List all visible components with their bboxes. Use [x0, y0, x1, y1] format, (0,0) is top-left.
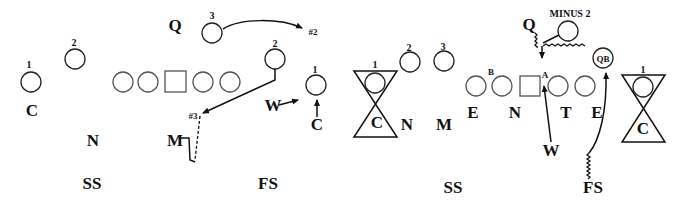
right-diagram: 1 C 2 3 N M B A E N T E MINUS 2 Q QB: [354, 8, 665, 197]
minus-2-player: [558, 21, 578, 41]
defender-free-safety: FS: [258, 174, 278, 193]
will-arrow: [544, 86, 551, 142]
receiver-left-2: [65, 49, 85, 69]
offensive-lineman: [220, 72, 240, 92]
receiver-right-2: [265, 49, 285, 69]
offensive-lineman: [492, 76, 512, 96]
defender-nose: N: [509, 103, 522, 122]
defender-strong-safety: SS: [83, 174, 102, 193]
receiver-right-diagram-right-1: [633, 77, 653, 97]
defender-nickel: N: [87, 131, 100, 150]
receiver-number-label: 1: [641, 64, 646, 75]
defender-end-left: E: [467, 103, 478, 122]
receiver-right-diagram-2: [400, 52, 420, 72]
center-square: [520, 76, 540, 96]
offensive-lineman: [466, 76, 486, 96]
left-diagram: 1 2 3 2 1 #2 #3 C N SS Q M FS W C: [21, 10, 326, 193]
defender-mike: M: [436, 115, 452, 134]
receiver-number-label: 2: [72, 37, 77, 48]
defender-free-safety: FS: [583, 178, 603, 197]
offensive-lineman: [548, 76, 568, 96]
route-arrow: [223, 21, 302, 29]
defender-will: W: [543, 141, 560, 160]
horizontal-wavy-line: [543, 44, 585, 46]
receiver-number-label: 1: [373, 59, 378, 70]
defender-will: W: [265, 96, 282, 115]
center-square: [165, 71, 186, 92]
receiver-number-label: 3: [441, 41, 446, 52]
minus-2-annotation: MINUS 2: [550, 8, 591, 19]
defender-nickel: N: [401, 115, 414, 134]
receiver-number-label: 1: [27, 59, 32, 70]
route-label: #3: [189, 111, 199, 121]
will-arrow: [279, 100, 298, 105]
offensive-lineman: [193, 72, 213, 92]
offensive-lineman: [138, 72, 158, 92]
receiver-right-1: [306, 75, 326, 95]
dashed-route: [195, 116, 200, 160]
qb-label: QB: [596, 54, 609, 64]
fs-wavy-line: [587, 153, 590, 179]
receiver-left-1: [21, 72, 41, 92]
football-play-diagrams: 1 2 3 2 1 #2 #3 C N SS Q M FS W C: [0, 0, 687, 206]
defender-tackle: T: [560, 103, 572, 122]
defender-end-right: E: [591, 103, 602, 122]
receiver-number-label: 1: [313, 64, 318, 75]
defender-corner-right: C: [637, 119, 649, 138]
defender-mike: M: [167, 131, 183, 150]
receiver-right-diagram-3: [434, 51, 454, 71]
offensive-lineman: [575, 76, 595, 96]
gap-label-a: A: [542, 70, 549, 80]
receiver-right-3: [202, 23, 222, 43]
receiver-number-label: 2: [273, 38, 278, 49]
defender-corner-right: C: [311, 115, 323, 134]
gap-label-b: B: [488, 67, 494, 77]
defender-q: Q: [168, 16, 181, 35]
route-label: #2: [309, 27, 319, 37]
q-wavy-line: [535, 33, 538, 47]
q-connector: [543, 35, 559, 43]
receiver-number-label: 3: [210, 10, 215, 21]
defender-corner-left: C: [26, 101, 38, 120]
receiver-number-label: 2: [407, 42, 412, 53]
offensive-lineman: [113, 72, 133, 92]
receiver-right-diagram-1: [365, 73, 385, 93]
defender-corner-left: C: [371, 113, 383, 132]
defender-q: Q: [522, 15, 535, 34]
defender-strong-safety: SS: [444, 178, 463, 197]
